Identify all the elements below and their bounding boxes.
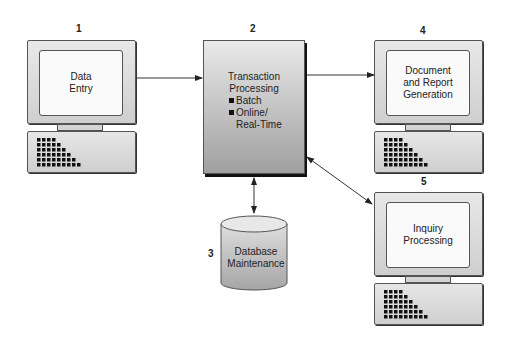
screen: DataEntry — [39, 50, 123, 116]
monitor-stand — [405, 276, 451, 283]
box-title-line: Processing — [229, 83, 278, 94]
node-database-maintenance: DatabaseMaintenance — [222, 246, 290, 270]
keyboard-icon — [27, 131, 136, 173]
node-label-line: Database — [235, 246, 278, 257]
node-label-line: Entry — [69, 83, 92, 94]
node-label-line: Maintenance — [227, 258, 284, 269]
node-inquiry-processing: InquiryProcessing — [374, 192, 484, 326]
bullet-square-icon — [229, 98, 234, 103]
arrow-2-to-5 — [307, 157, 372, 204]
bullet-item: Batch — [236, 95, 304, 107]
monitor-stand — [405, 124, 451, 131]
node-number-1: 1 — [76, 23, 82, 34]
node-number-4: 4 — [420, 25, 426, 36]
bullet-text: Batch — [236, 95, 262, 106]
bullet-text: Real-Time — [236, 119, 304, 131]
screen: InquiryProcessing — [386, 202, 470, 268]
monitor: Documentand ReportGeneration — [374, 40, 483, 124]
screen: Documentand ReportGeneration — [386, 50, 470, 116]
bullet-item: Online/Real-Time — [236, 107, 304, 131]
node-label-line: and Report — [403, 77, 452, 88]
node-label-line: Inquiry — [413, 223, 443, 234]
node-label-line: Document — [405, 65, 451, 76]
bullet-text: Online/ — [236, 107, 268, 118]
monitor: InquiryProcessing — [374, 192, 483, 276]
monitor: DataEntry — [27, 40, 136, 124]
node-label-line: Data — [70, 71, 91, 82]
node-label-line: Processing — [403, 235, 452, 246]
monitor-stand — [57, 124, 103, 131]
node-number-3: 3 — [208, 248, 214, 259]
node-document-report-generation: Documentand ReportGeneration — [374, 40, 484, 174]
node-label-line: Generation — [403, 89, 452, 100]
node-number-5: 5 — [421, 176, 427, 187]
node-number-2: 2 — [250, 23, 256, 34]
keyboard-icon — [374, 131, 483, 173]
bullet-list: Batch Online/Real-Time — [204, 95, 304, 131]
box-title-line: Transaction — [228, 71, 280, 82]
keyboard-icon — [374, 283, 483, 325]
bullet-square-icon — [229, 110, 234, 115]
node-transaction-processing: TransactionProcessing Batch Online/Real-… — [203, 40, 305, 174]
node-data-entry: DataEntry — [27, 40, 137, 174]
